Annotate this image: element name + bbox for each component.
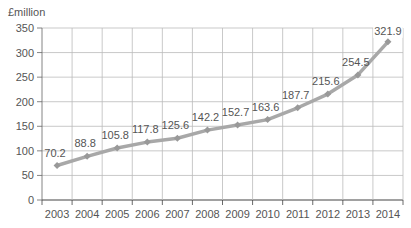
y-tick-label: 50 xyxy=(22,169,34,181)
x-tick-label: 2005 xyxy=(105,208,129,220)
x-tick-label: 2008 xyxy=(195,208,219,220)
data-label: 142.2 xyxy=(192,111,220,123)
y-tick-label: 350 xyxy=(16,22,34,34)
x-tick-label: 2012 xyxy=(316,208,340,220)
y-tick-label: 300 xyxy=(16,47,34,59)
y-tick-label: 150 xyxy=(16,120,34,132)
data-label: 105.8 xyxy=(101,129,129,141)
y-axis-ticks: 050100150200250300350 xyxy=(16,22,42,206)
data-label: 125.6 xyxy=(162,119,190,131)
y-axis-label: £million xyxy=(8,6,45,18)
y-tick-label: 0 xyxy=(28,194,34,206)
data-point-marker xyxy=(144,139,151,146)
data-label: 215.6 xyxy=(312,75,340,87)
y-tick-label: 100 xyxy=(16,145,34,157)
data-label: 117.8 xyxy=(132,123,159,135)
x-tick-label: 2014 xyxy=(376,208,400,220)
y-tick-label: 250 xyxy=(16,71,34,83)
line-chart: £million 050100150200250300350 200320042… xyxy=(0,0,411,228)
data-label: 254.5 xyxy=(342,56,370,68)
data-labels: 70.288.8105.8117.8125.6142.2152.7163.618… xyxy=(44,24,402,159)
data-label: 321.9 xyxy=(374,25,402,37)
x-tick-label: 2009 xyxy=(225,208,249,220)
x-tick-label: 2010 xyxy=(255,208,279,220)
x-tick-label: 2006 xyxy=(135,208,159,220)
data-label: 152.7 xyxy=(222,106,250,118)
data-point-marker xyxy=(234,121,241,128)
x-tick-label: 2003 xyxy=(45,208,69,220)
data-label: 187.7 xyxy=(282,89,310,101)
x-axis-ticks: 2003200420052006200720082009201020112012… xyxy=(42,200,403,220)
x-tick-label: 2007 xyxy=(165,208,189,220)
data-label: 88.8 xyxy=(74,137,95,149)
x-tick-label: 2011 xyxy=(286,208,310,220)
data-label: 70.2 xyxy=(44,147,65,159)
data-label: 163.6 xyxy=(252,101,280,113)
x-tick-label: 2013 xyxy=(346,208,370,220)
x-tick-label: 2004 xyxy=(75,208,99,220)
y-tick-label: 200 xyxy=(16,96,34,108)
